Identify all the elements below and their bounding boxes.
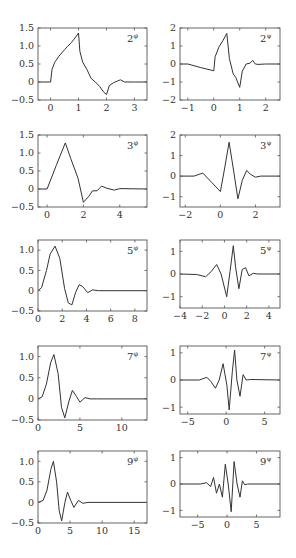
x-tick-label: −4	[173, 310, 187, 321]
wavelet-figure: 0123−0.500.51.01.52φ−1012−2−10122ψ024−0.…	[0, 0, 296, 558]
plot-psi3: −202−10123ψ	[162, 129, 280, 220]
x-tick-label: 2	[252, 209, 258, 220]
x-tick-label: 6	[108, 313, 114, 324]
panel-label-psi5: 5ψ	[260, 244, 271, 256]
x-tick-label: 5	[77, 422, 83, 433]
y-tick-label: 1.0	[19, 244, 34, 255]
x-tick-label: 0	[44, 209, 50, 220]
x-tick-label: 2	[103, 102, 109, 113]
x-tick-label: 2	[263, 102, 269, 113]
y-tick-label: 0.5	[19, 476, 34, 487]
panel-label-phi9: 9φ	[127, 455, 138, 467]
y-tick-label: 0	[28, 393, 34, 404]
x-tick-label: 10	[96, 525, 108, 536]
y-tick-label: −1	[162, 505, 176, 516]
curve-psi9	[180, 462, 280, 512]
y-tick-label: 1.0	[19, 351, 34, 362]
x-tick-label: 5	[67, 525, 73, 536]
y-tick-label: −1	[162, 191, 176, 202]
y-tick-label: 1.0	[19, 456, 34, 467]
panel-label-psi9: 9ψ	[260, 455, 271, 467]
x-tick-label: −5	[181, 416, 195, 427]
plot-psi2: −1012−2−10122ψ	[162, 22, 280, 113]
x-tick-label: 0	[35, 313, 41, 324]
x-tick-label: −2	[178, 209, 192, 220]
x-tick-label: 5	[253, 519, 259, 530]
x-tick-label: 1	[76, 102, 82, 113]
y-tick-label: 0.5	[19, 165, 34, 176]
y-tick-label: −0.5	[11, 517, 34, 528]
y-tick-label: 0	[170, 478, 176, 489]
x-tick-label: 2	[59, 313, 65, 324]
curve-phi3	[38, 143, 147, 202]
curve-phi7	[38, 355, 147, 418]
x-tick-label: 0	[224, 519, 230, 530]
x-tick-label: 5	[262, 416, 268, 427]
y-tick-label: 1.5	[19, 22, 34, 33]
y-tick-label: 1	[170, 40, 176, 51]
x-tick-label: 2	[244, 310, 250, 321]
x-tick-label: 0	[217, 209, 223, 220]
plot-psi5: −4−2024−1015ψ	[162, 240, 280, 321]
x-tick-label: 0	[221, 310, 227, 321]
y-tick-label: 0.5	[19, 372, 34, 383]
y-tick-label: −1	[162, 76, 176, 87]
y-tick-label: 0	[170, 374, 176, 385]
y-tick-label: 2	[170, 22, 176, 33]
y-tick-label: 1	[170, 246, 176, 257]
panel-label-phi3: 3φ	[127, 139, 138, 151]
y-tick-label: 0	[170, 58, 176, 69]
x-tick-label: 0	[35, 422, 41, 433]
x-tick-label: 0	[223, 416, 229, 427]
x-tick-label: 8	[132, 313, 138, 324]
x-tick-label: −5	[191, 519, 205, 530]
y-tick-label: 1.0	[19, 147, 34, 158]
panel-label-psi7: 7ψ	[260, 350, 271, 362]
y-tick-label: −1	[162, 402, 176, 413]
panel-label-phi2: 2φ	[127, 32, 138, 44]
x-tick-label: 2	[80, 209, 86, 220]
x-tick-label: 3	[131, 102, 137, 113]
y-tick-label: 0	[170, 170, 176, 181]
plot-psi9: −505−1019ψ	[162, 451, 280, 530]
x-tick-label: −2	[195, 310, 209, 321]
y-tick-label: 0	[170, 268, 176, 279]
x-tick-label: −1	[181, 102, 195, 113]
x-tick-label: 0	[35, 525, 41, 536]
x-tick-label: 1	[237, 102, 243, 113]
plot-psi7: −505−1017ψ	[162, 346, 280, 427]
y-tick-label: −0.5	[11, 94, 34, 105]
y-tick-label: −0.5	[11, 305, 34, 316]
y-tick-label: 0	[28, 285, 34, 296]
y-tick-label: 0.5	[19, 265, 34, 276]
y-tick-label: 0	[28, 183, 34, 194]
curve-phi9	[38, 461, 147, 521]
y-tick-label: 1	[170, 150, 176, 161]
x-tick-label: 0	[48, 102, 54, 113]
y-tick-label: 1	[170, 452, 176, 463]
y-tick-label: −0.5	[11, 414, 34, 425]
x-tick-label: 0	[211, 102, 217, 113]
y-tick-label: 1.0	[19, 40, 34, 51]
y-tick-label: −1	[162, 291, 176, 302]
x-tick-label: 4	[117, 209, 123, 220]
panel-label-psi2: 2ψ	[260, 32, 271, 44]
plot-phi2: 0123−0.500.51.01.52φ	[11, 22, 147, 113]
x-tick-label: 10	[116, 422, 128, 433]
x-tick-label: 4	[266, 310, 272, 321]
plot-phi5: 02468−0.500.51.05φ	[11, 240, 147, 324]
x-tick-label: 15	[128, 525, 140, 536]
y-tick-label: 1.5	[19, 129, 34, 140]
y-tick-label: 0	[28, 76, 34, 87]
panel-label-psi3: 3ψ	[260, 139, 271, 151]
x-tick-label: 4	[83, 313, 89, 324]
y-tick-label: 0	[28, 497, 34, 508]
panel-label-phi7: 7φ	[127, 350, 138, 362]
y-tick-label: 1	[170, 347, 176, 358]
y-tick-label: −2	[162, 94, 176, 105]
panel-label-phi5: 5φ	[127, 244, 138, 256]
plot-phi9: 051015−0.500.51.09φ	[11, 451, 147, 536]
y-tick-label: 0.5	[19, 58, 34, 69]
plot-phi3: 024−0.500.51.01.53φ	[11, 129, 147, 220]
plot-phi7: 0510−0.500.51.07φ	[11, 346, 147, 433]
